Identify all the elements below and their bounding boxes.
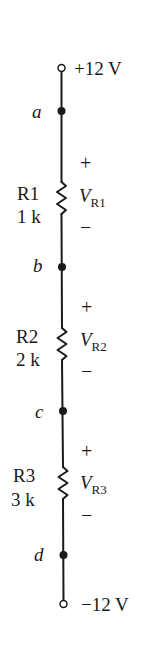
wire-bottom (63, 499, 64, 600)
node-a-label: a (32, 102, 42, 121)
terminal-bottom (60, 601, 67, 608)
resistor-r2-name: R2 (16, 327, 38, 346)
wire-r1-to-r2 (62, 214, 63, 328)
node-c-label: c (35, 402, 43, 421)
resistor-r3-plus: + (81, 441, 92, 461)
voltage-subscript: R1 (91, 195, 106, 210)
resistor-r2-voltage: VR2 (80, 330, 107, 349)
resistor-r3-zigzag (59, 467, 68, 499)
terminal-top (58, 65, 65, 72)
resistor-r3-name: R3 (13, 466, 35, 485)
resistor-r2-minus: − (81, 361, 92, 381)
resistor-r3-value: 3 k (11, 490, 35, 509)
voltage-symbol: V (79, 185, 91, 206)
resistor-r3-minus: − (81, 505, 92, 525)
resistor-r2-value: 2 k (16, 350, 40, 369)
node-d-label: d (34, 545, 44, 564)
node-b-dot (58, 263, 66, 271)
node-c-dot (59, 407, 67, 415)
resistor-r2-zigzag (58, 328, 67, 360)
node-d-dot (60, 551, 68, 559)
voltage-subscript: R2 (92, 339, 107, 354)
resistor-r1-zigzag (57, 182, 66, 214)
supply-bottom-label: −12 V (81, 595, 129, 614)
resistor-r1-voltage: VR1 (79, 186, 106, 205)
resistor-r2-plus: + (81, 297, 92, 317)
resistor-r1-value: 1 k (17, 207, 41, 226)
node-a-dot (58, 107, 66, 115)
voltage-subscript: R3 (92, 482, 107, 497)
resistor-r3-voltage: VR3 (80, 473, 107, 492)
resistor-r1-minus: − (80, 217, 91, 237)
resistor-r1-name: R1 (17, 184, 39, 203)
voltage-symbol: V (80, 329, 92, 350)
resistor-r1-plus: + (80, 153, 91, 173)
supply-top-label: +12 V (74, 59, 122, 78)
node-b-label: b (33, 256, 43, 275)
voltage-symbol: V (80, 472, 92, 493)
